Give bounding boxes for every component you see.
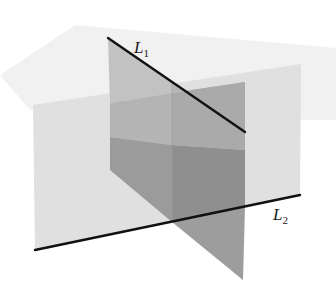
skew-lines-diagram: L1 L2: [0, 0, 336, 291]
label-l2: L2: [272, 205, 288, 226]
l1-plane-mid-right: [172, 82, 245, 150]
